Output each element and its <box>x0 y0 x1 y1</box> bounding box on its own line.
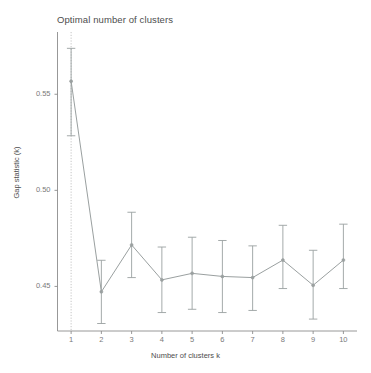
data-point <box>312 284 315 287</box>
data-point <box>342 259 345 262</box>
y-axis-tick-label: 0.45 <box>21 281 51 290</box>
x-axis-tick-label: 9 <box>303 335 323 344</box>
plot-canvas <box>0 0 371 373</box>
plot-geometry <box>55 32 358 334</box>
x-axis-tick-label: 2 <box>91 335 111 344</box>
y-axis-tick-label: 0.55 <box>21 89 51 98</box>
data-point <box>281 259 284 262</box>
x-axis-tick-label: 10 <box>333 335 353 344</box>
gap-statistic-line <box>71 81 343 292</box>
x-axis-title: Number of clusters k <box>0 351 371 360</box>
gap-statistic-chart: Optimal number of clusters 0.550.500.45 … <box>0 0 371 373</box>
x-axis-tick-label: 1 <box>61 335 81 344</box>
y-axis-tick-label: 0.50 <box>21 185 51 194</box>
x-axis-tick-label: 8 <box>273 335 293 344</box>
data-point <box>70 80 73 83</box>
error-bar <box>339 224 347 288</box>
data-point <box>100 290 103 293</box>
data-point <box>160 278 163 281</box>
data-point <box>221 275 224 278</box>
x-axis-tick-label: 5 <box>182 335 202 344</box>
y-axis-title: Gap statistic (k) <box>12 113 21 233</box>
error-bar <box>67 48 75 135</box>
x-axis-tick-label: 4 <box>152 335 172 344</box>
x-axis-tick-label: 7 <box>243 335 263 344</box>
data-point <box>191 272 194 275</box>
data-point <box>251 276 254 279</box>
x-axis-tick-label: 3 <box>122 335 142 344</box>
data-point <box>130 243 133 246</box>
x-axis-tick-label: 6 <box>212 335 232 344</box>
error-bar <box>279 225 287 288</box>
